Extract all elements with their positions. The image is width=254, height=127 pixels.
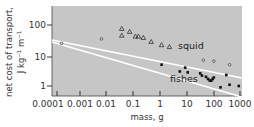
data-point (199, 72, 202, 75)
x-tick-10: 10 (181, 99, 193, 109)
x-axis-title: mass, g (130, 112, 163, 122)
squid-label: squid (178, 40, 204, 51)
data-point (213, 76, 216, 79)
y-axis-title-line1: net cost of transport, (4, 7, 14, 97)
x-tick-0.001: 0.001 (67, 99, 93, 109)
data-point (160, 63, 163, 66)
data-point (228, 83, 231, 86)
data-point (60, 42, 63, 45)
x-tick-0.01: 0.01 (96, 99, 116, 109)
y-tick-100: 100 (29, 20, 46, 30)
data-point (184, 66, 187, 69)
y-tick-10: 10 (35, 52, 47, 62)
y-tick-1: 1 (40, 81, 46, 91)
data-point (237, 85, 240, 88)
x-tick-100: 100 (205, 99, 222, 109)
data-point (228, 63, 231, 66)
y-axis: 100 10 1 (29, 20, 52, 91)
data-point (213, 60, 216, 63)
x-tick-0.1: 0.1 (126, 99, 140, 109)
x-tick-1: 1 (157, 99, 163, 109)
x-tick-0.0001: 0.0001 (32, 99, 64, 109)
data-point (202, 59, 205, 62)
x-tick-1000: 1000 (229, 99, 252, 109)
data-point (219, 86, 222, 89)
fishes-label: fishes (170, 73, 198, 84)
data-point (201, 74, 204, 77)
chart: 100 10 1 0.0001 0.001 0.01 0.1 1 10 100 … (0, 0, 254, 127)
data-point (100, 38, 103, 41)
data-point (225, 74, 228, 77)
y-axis-title-line2: J kg⁻¹ m⁻¹ (16, 31, 26, 74)
